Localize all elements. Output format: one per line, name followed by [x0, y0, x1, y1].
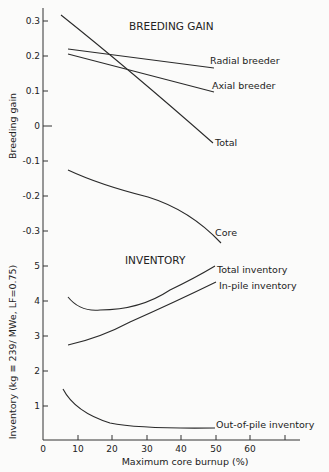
chart-figure: 0.3 0.2 0.1 0 -0.1 -0.2 -0.3 5 4 3 2 1 0… [0, 0, 329, 472]
radial-breeder-curve [68, 49, 214, 68]
in-pile-inventory-label: In-pile inventory [219, 280, 297, 291]
y-axis-label-inventory: Inventory (kg ≡ 239/ MWe, LF=0.75) [7, 265, 18, 439]
total-label: Total [214, 137, 237, 148]
total-inventory-label: Total inventory [216, 264, 288, 275]
tick-label: 50 [210, 444, 222, 454]
x-ticks: 0 10 20 30 40 50 60 [40, 435, 285, 454]
x-axis-label: Maximum core burnup (%) [122, 456, 249, 467]
tick-label: 5 [34, 261, 40, 271]
tick-label: 30 [141, 444, 153, 454]
tick-label: 0.1 [26, 86, 40, 96]
tick-label: 0.2 [26, 51, 40, 61]
total-breeding-curve [61, 15, 213, 143]
tick-label: 10 [72, 444, 84, 454]
inventory-y-ticks: 5 4 3 2 1 [34, 261, 48, 411]
total-inventory-curve [68, 266, 215, 310]
tick-label: 0.3 [26, 16, 40, 26]
tick-label: 60 [244, 444, 256, 454]
tick-label: 1 [34, 401, 40, 411]
tick-label: 0 [34, 121, 40, 131]
tick-label: 40 [175, 444, 187, 454]
tick-label: -0.3 [22, 226, 40, 236]
breeding-gain-title: BREEDING GAIN [129, 20, 214, 32]
tick-label: -0.1 [22, 156, 40, 166]
out-of-pile-inventory-label: Out-of-pile inventory [216, 419, 315, 430]
radial-breeder-label: Radial breeder [210, 55, 280, 66]
tick-label: 0 [40, 444, 46, 454]
axial-breeder-label: Axial breeder [212, 80, 276, 91]
core-curve [68, 170, 221, 243]
tick-label: -0.2 [22, 191, 40, 201]
tick-label: 20 [106, 444, 118, 454]
inventory-title: INVENTORY [125, 254, 186, 266]
tick-label: 2 [34, 366, 40, 376]
breeding-y-ticks: 0.3 0.2 0.1 0 -0.1 -0.2 -0.3 [22, 16, 52, 236]
y-axis-label-breeding: Breeding gain [7, 93, 18, 159]
core-label: Core [215, 227, 237, 238]
tick-label: 4 [34, 296, 40, 306]
out-of-pile-inventory-curve [63, 389, 215, 428]
axial-breeder-curve [68, 54, 214, 92]
tick-label: 3 [34, 331, 40, 341]
in-pile-inventory-curve [68, 282, 216, 345]
